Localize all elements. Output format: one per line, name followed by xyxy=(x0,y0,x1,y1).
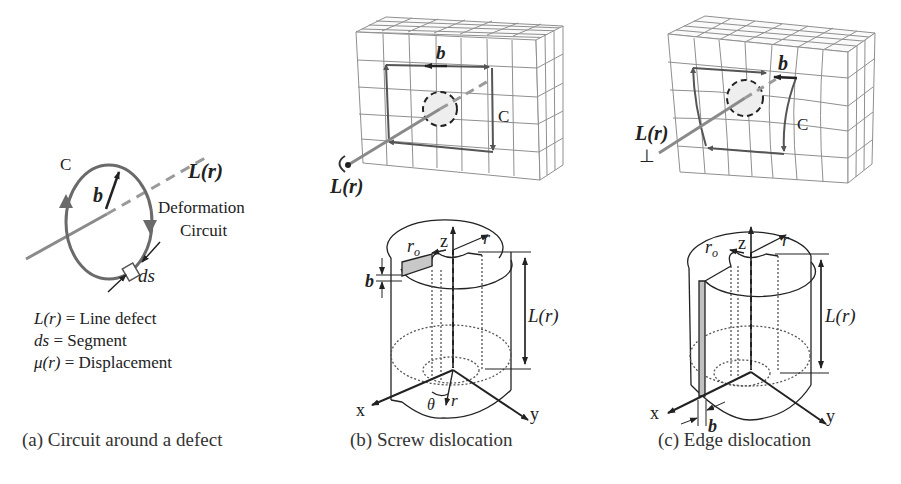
panel-b-screw-dislocation: b C L(r) xyxy=(329,17,563,451)
screw-line-end-dot xyxy=(345,162,351,168)
z-label: z xyxy=(440,231,448,251)
panel-c-edge-dislocation: ⊥ b C L(r) xyxy=(634,16,875,451)
r-label-bottom: r xyxy=(451,391,458,410)
screw-burgers-label: b xyxy=(436,42,446,63)
edge-line-label: L(r) xyxy=(634,122,668,145)
legend: L(r) = Line defect ds = Segment μ(r) = D… xyxy=(33,309,172,372)
circuit-word-label: Circuit xyxy=(180,221,227,240)
theta-label: θ xyxy=(427,396,435,413)
x-axis xyxy=(372,370,453,405)
r0-label: ro xyxy=(407,236,420,259)
edge-b-arrow-left xyxy=(707,402,725,410)
burgers-vector-arrow xyxy=(106,172,119,209)
legend-item: L(r) = Line defect xyxy=(33,309,157,328)
segment-label: ds xyxy=(138,265,155,286)
edge-y-label: y xyxy=(826,406,835,426)
edge-z-label: z xyxy=(738,233,746,253)
y-label: y xyxy=(530,404,539,424)
screw-rotation-icon xyxy=(340,156,346,172)
edge-lattice-block xyxy=(668,16,875,183)
edge-b-arrow-right xyxy=(681,418,697,424)
circuit-label: C xyxy=(60,155,71,174)
edge-r-label: r xyxy=(782,230,790,250)
panel-a-circuit: C b L(r) Deformation Circuit ds L(r) = L… xyxy=(22,155,245,451)
line-defect-label: L(r) xyxy=(187,159,223,183)
length-label: L(r) xyxy=(527,305,559,327)
edge-y-axis xyxy=(751,372,826,424)
screw-line-label: L(r) xyxy=(329,175,363,198)
caption-a: (a) Circuit around a defect xyxy=(22,429,223,451)
dislocation-figure: C b L(r) Deformation Circuit ds L(r) = L… xyxy=(0,0,901,484)
legend-item: μ(r) = Displacement xyxy=(33,353,172,372)
deformation-label: Deformation xyxy=(158,198,245,217)
screw-circuit-label: C xyxy=(498,107,509,126)
circuit-arrow-down-icon xyxy=(143,220,157,234)
legend-item: ds = Segment xyxy=(34,331,127,350)
edge-burgers-label: b xyxy=(778,52,788,74)
edge-x-label: x xyxy=(650,403,659,423)
edge-r0-label: ro xyxy=(705,237,718,260)
edge-dislocation-symbol: ⊥ xyxy=(639,146,655,166)
edge-circuit-label: C xyxy=(797,115,808,134)
deformation-circuit xyxy=(66,165,152,279)
caption-c: (c) Edge dislocation xyxy=(658,429,812,451)
burgers-label: b xyxy=(93,184,103,206)
r-label-top: r xyxy=(483,228,491,248)
edge-r-arrow xyxy=(751,235,786,253)
caption-b: (b) Screw dislocation xyxy=(350,429,513,451)
b-label: b xyxy=(365,271,374,291)
x-label: x xyxy=(356,400,365,420)
edge-length-label: L(r) xyxy=(824,305,856,327)
